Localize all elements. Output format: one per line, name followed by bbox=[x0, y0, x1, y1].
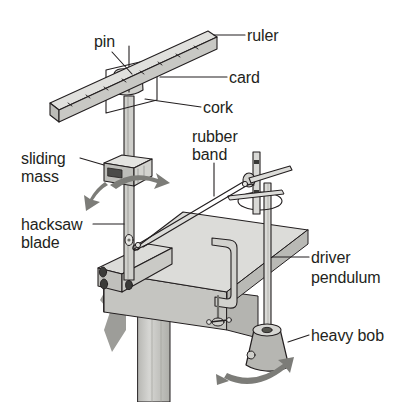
label-card: card bbox=[229, 69, 260, 87]
label-cork: cork bbox=[203, 99, 233, 117]
label-hacksaw: hacksaw bbox=[21, 216, 83, 234]
label-blade: blade bbox=[21, 234, 60, 252]
label-pin: pin bbox=[94, 33, 115, 51]
stand-rod bbox=[228, 152, 292, 214]
label-mass: mass bbox=[21, 168, 59, 186]
label-heavy-bob: heavy bob bbox=[311, 327, 384, 345]
figure-canvas: pin ruler card cork rubber band sliding … bbox=[0, 0, 418, 402]
label-rubber: rubber bbox=[192, 128, 238, 146]
label-sliding: sliding bbox=[21, 150, 66, 168]
label-ruler: ruler bbox=[247, 27, 279, 45]
label-driver: driver bbox=[311, 249, 350, 267]
hacksaw-blade bbox=[124, 96, 134, 280]
label-band: band bbox=[192, 146, 227, 164]
label-pendulum: pendulum bbox=[311, 269, 380, 287]
